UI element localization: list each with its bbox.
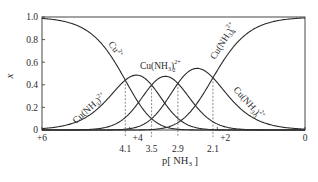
y-tick-label: 0.4 — [26, 80, 38, 90]
label-cu-nh3: Cu(NH3)2+ — [70, 90, 109, 126]
curve-2 — [42, 76, 305, 130]
crossover-label-2.9: 2.9 — [172, 144, 184, 154]
crossover-labels: 4.13.52.92.1 — [119, 144, 219, 154]
y-tick-label: 0.2 — [26, 103, 38, 113]
x-tick-label: +6 — [37, 133, 47, 143]
x-tick-label: +2 — [220, 133, 230, 143]
label-cu-nh3-4: Cu(NH3)2+4 — [207, 20, 241, 62]
label-cu-nh3-2: Cu(NH3)2+2 — [140, 59, 181, 73]
x-tick-label: 0 — [303, 133, 308, 143]
crossover-label-4.1: 4.1 — [119, 144, 131, 154]
crossover-label-2.1: 2.1 — [207, 144, 219, 154]
y-tick-label: 0.6 — [26, 58, 38, 68]
y-tick-label: 1.0 — [26, 12, 38, 22]
x-axis-label: p[ NH3 ] — [162, 155, 198, 168]
species-distribution-chart: 00.20.40.60.81.0 +6+4+20 4.13.52.92.1 x … — [0, 0, 318, 182]
x-tick-label: +4 — [133, 133, 143, 143]
y-tick-label: 0.8 — [26, 35, 38, 45]
y-axis-label: x — [3, 73, 15, 79]
label-cu2plus: Cu2+ — [106, 39, 125, 60]
crossover-label-3.5: 3.5 — [146, 144, 158, 154]
